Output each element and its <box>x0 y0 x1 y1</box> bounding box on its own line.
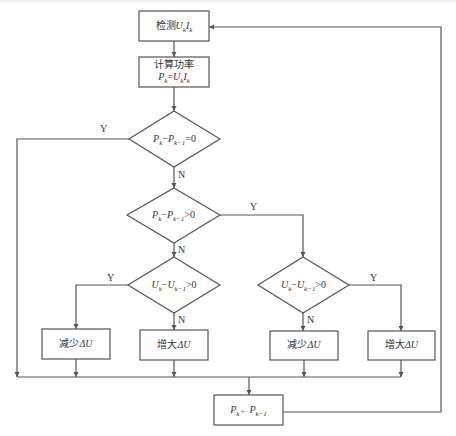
detect-label: 检测UkIk <box>139 20 209 36</box>
edge-label-u-left-yes: Y <box>107 272 114 283</box>
k1-sub: k−1 <box>175 285 186 293</box>
operator: =0 <box>185 133 196 144</box>
increase-text: 增大 <box>385 339 405 350</box>
i-sub: k <box>187 77 190 85</box>
edge-label-u-left-no: N <box>178 314 185 325</box>
edge-label-p-eq-yes: Y <box>100 123 107 134</box>
operator: >0 <box>315 279 326 290</box>
edge-decision2-yes <box>220 215 303 257</box>
edge-label-p-eq-no: N <box>178 169 185 180</box>
increase-du-right-label: 增大ΔU <box>368 339 435 351</box>
edge-label-u-right-yes: Y <box>370 272 377 283</box>
i-sub: k <box>189 26 192 34</box>
u-var: U <box>176 20 183 31</box>
operator: >0 <box>186 279 197 290</box>
edge-u-right-yes <box>349 285 401 331</box>
delta-u: ΔU <box>177 339 190 350</box>
edge-label-p-gt-no: N <box>178 244 185 255</box>
decision-u-right-label: Uk−Uk−1>0 <box>258 279 349 295</box>
edge-u-left-yes <box>76 285 128 329</box>
increase-text: 增大 <box>157 339 177 350</box>
decision-p-equal-label: Pk−Pk−1=0 <box>129 133 220 149</box>
delta-u: ΔU <box>405 339 418 350</box>
increase-du-left-label: 增大ΔU <box>140 339 208 351</box>
k1-sub: k−1 <box>255 410 266 418</box>
decrease-du-left-label: 减少ΔU <box>42 338 110 350</box>
decrease-text: 减少 <box>59 338 79 349</box>
flowchart-canvas <box>0 0 456 436</box>
u-var: U <box>151 279 158 290</box>
u-var: U <box>167 279 174 290</box>
delta-u: ΔU <box>79 338 92 349</box>
assign-arrow: ← <box>239 404 249 415</box>
k1-sub: k−1 <box>304 285 315 293</box>
operator: >0 <box>184 209 195 220</box>
decrease-du-right-label: 减少ΔU <box>270 339 338 351</box>
decision-p-greater-label: Pk−Pk−1>0 <box>127 209 220 225</box>
k1-sub: k−1 <box>174 139 185 147</box>
edge-label-p-gt-yes: Y <box>250 201 257 212</box>
detect-text: 检测 <box>156 20 176 31</box>
decision-u-left-label: Uk−Uk−1>0 <box>128 279 220 295</box>
compute-title: 计算功率 <box>139 59 209 71</box>
decrease-text: 减少 <box>287 339 307 350</box>
delta-u: ΔU <box>307 339 320 350</box>
update-p-label: Pk←Pk−1 <box>214 404 283 420</box>
compute-label: 计算功率 Pk=UkIk <box>139 59 209 87</box>
edge-label-u-right-no: N <box>307 314 314 325</box>
compute-formula: Pk=UkIk <box>139 71 209 87</box>
k1-sub: k−1 <box>173 215 184 223</box>
